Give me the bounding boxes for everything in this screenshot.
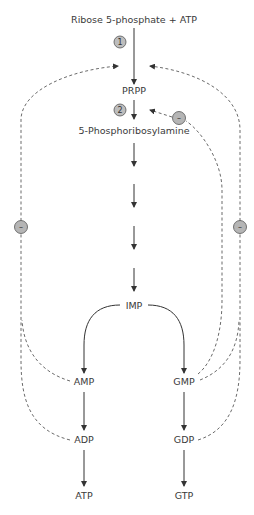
- inhibitor-left: –: [15, 221, 28, 234]
- node-gdp: GDP: [174, 434, 195, 445]
- node-prpp: PRPP: [122, 85, 146, 96]
- arrow-imp-to-gmp: [148, 305, 184, 373]
- feedback-gdp-to-step1: [150, 66, 240, 440]
- feedback-adp-to-step1: [21, 66, 118, 440]
- pathway-diagram: – – – 1 2 Ribose 5-phosphate + ATP PRPP …: [0, 0, 254, 515]
- node-amp: AMP: [74, 376, 95, 387]
- node-atp: ATP: [75, 490, 93, 501]
- feedback-amp-to-step1: [22, 320, 70, 381]
- node-gmp: GMP: [173, 376, 195, 387]
- inhibitor-right: –: [234, 221, 247, 234]
- node-gtp: GTP: [175, 490, 194, 501]
- feedback-gmp-to-step2-line: [186, 121, 222, 374]
- step-2-number: 2: [117, 106, 122, 115]
- inhibitor-inner-symbol: –: [177, 114, 181, 123]
- step-1-marker: 1: [114, 36, 126, 48]
- node-adp: ADP: [74, 434, 94, 445]
- main-pathway-arrows: [84, 28, 184, 486]
- inhibitor-left-symbol: –: [19, 223, 23, 232]
- feedback-gmp-to-step2-arrow: [150, 110, 172, 117]
- feedback-inhibition-lines: [21, 66, 240, 440]
- node-5-phosphoribosylamine: 5-Phosphoribosylamine: [78, 125, 189, 136]
- step-2-marker: 2: [114, 104, 126, 116]
- node-ribose-5-phosphate-atp: Ribose 5-phosphate + ATP: [71, 14, 197, 25]
- arrow-imp-to-amp: [84, 305, 120, 373]
- inhibitor-inner: –: [173, 112, 186, 125]
- node-imp: IMP: [126, 300, 143, 311]
- step-1-number: 1: [117, 38, 122, 47]
- inhibitor-right-symbol: –: [238, 223, 242, 232]
